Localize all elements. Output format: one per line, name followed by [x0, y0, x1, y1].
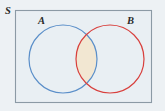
venn-diagram-figure: S A B: [0, 0, 165, 111]
venn-diagram-canvas: S A B: [0, 0, 165, 111]
set-a-label: A: [37, 15, 45, 26]
set-b-label: B: [126, 15, 134, 26]
universal-set-label: S: [5, 5, 11, 16]
